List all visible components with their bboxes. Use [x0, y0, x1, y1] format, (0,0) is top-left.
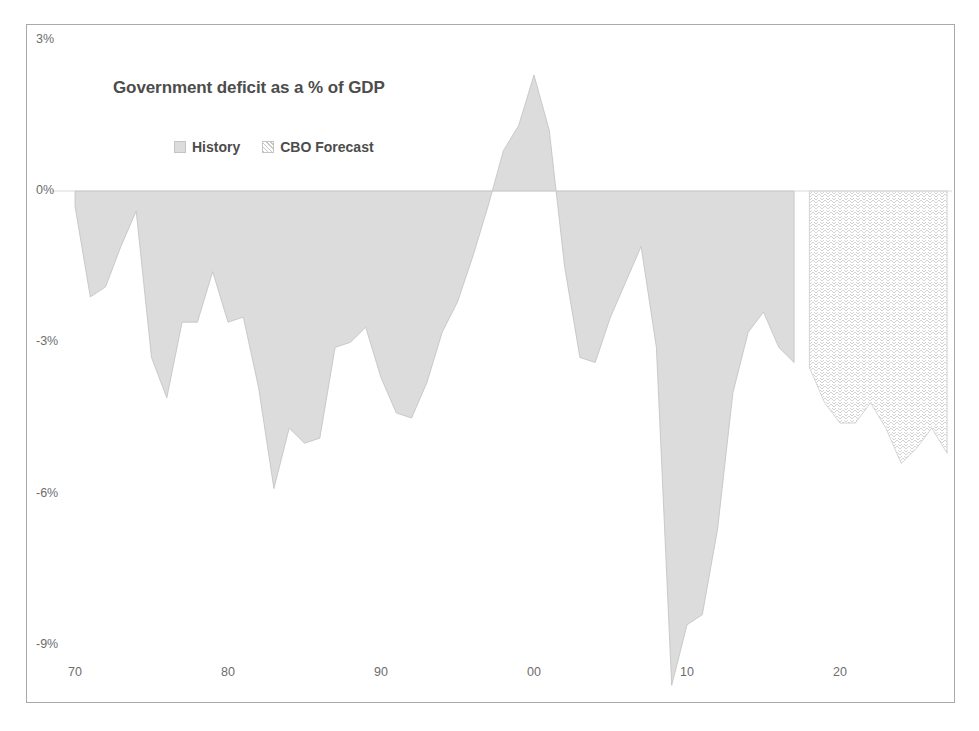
- x-tick-label: 00: [514, 665, 554, 679]
- legend-item-cbo-forecast: CBO Forecast: [262, 139, 373, 155]
- y-tick-label: -6%: [36, 486, 58, 500]
- y-tick-label: 3%: [36, 32, 54, 46]
- legend-label-history: History: [192, 139, 240, 155]
- x-tick-label: 20: [820, 665, 860, 679]
- legend-label-cbo-forecast: CBO Forecast: [280, 139, 373, 155]
- x-tick-label: 70: [55, 665, 95, 679]
- x-tick-label: 10: [667, 665, 707, 679]
- y-tick-label: -3%: [36, 334, 58, 348]
- y-tick-label: 0%: [36, 183, 54, 197]
- chart-legend: History CBO Forecast: [174, 139, 374, 155]
- y-tick-label: -9%: [36, 637, 58, 651]
- x-tick-label: 80: [208, 665, 248, 679]
- x-tick-label: 90: [361, 665, 401, 679]
- legend-swatch-history-icon: [174, 141, 186, 153]
- chart-title: Government deficit as a % of GDP: [113, 78, 385, 98]
- deficit-area-chart: 3%0%-3%-6%-9% 708090001020 Government de…: [0, 0, 979, 731]
- legend-item-history: History: [174, 139, 240, 155]
- plot-frame: [26, 24, 955, 703]
- legend-swatch-forecast-icon: [262, 141, 274, 153]
